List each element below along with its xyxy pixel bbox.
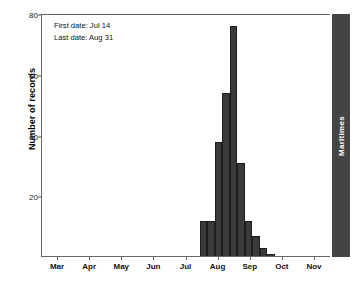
- histogram-bar: [200, 221, 207, 257]
- x-tick-label: Nov: [306, 262, 321, 271]
- x-tick-label: May: [113, 262, 129, 271]
- x-tick-mark: [282, 256, 283, 260]
- x-tick-mark: [89, 256, 90, 260]
- histogram-bar: [222, 93, 229, 257]
- x-tick-mark: [153, 256, 154, 260]
- histogram-bar: [207, 221, 214, 257]
- y-axis-title: Number of records: [27, 29, 37, 189]
- x-tick-mark: [250, 256, 251, 260]
- annotation-block: First date: Jul 14 Last date: Aug 31: [54, 20, 113, 44]
- x-tick-label: Aug: [210, 262, 226, 271]
- annotation-first-date: First date: Jul 14: [54, 20, 113, 32]
- facet-strip-label: Maritimes: [337, 115, 346, 155]
- x-tick-label: Apr: [82, 262, 96, 271]
- y-tick-mark: [38, 197, 42, 198]
- y-tick-label: 60: [29, 71, 38, 80]
- x-tick-mark: [218, 256, 219, 260]
- histogram-bar: [237, 163, 244, 257]
- y-tick-mark: [38, 136, 42, 137]
- x-tick-mark: [121, 256, 122, 260]
- y-tick-label: 40: [29, 132, 38, 141]
- x-tick-mark: [314, 256, 315, 260]
- histogram-bar: [252, 236, 259, 257]
- histogram-bar: [215, 142, 222, 257]
- y-tick-mark: [38, 75, 42, 76]
- x-tick-label: Jul: [180, 262, 192, 271]
- histogram-figure: Number of records First date: Jul 14 Las…: [0, 0, 355, 284]
- histogram-bar: [230, 26, 237, 257]
- x-tick-label: Mar: [50, 262, 64, 271]
- x-tick-label: Oct: [275, 262, 288, 271]
- histogram-bar: [245, 221, 252, 257]
- x-tick-mark: [57, 256, 58, 260]
- y-tick-label: 20: [29, 193, 38, 202]
- plot-panel: First date: Jul 14 Last date: Aug 31 204…: [41, 14, 330, 257]
- y-tick-label: 80: [29, 11, 38, 20]
- x-tick-mark: [186, 256, 187, 260]
- facet-strip-maritimes: Maritimes: [332, 14, 350, 257]
- annotation-last-date: Last date: Aug 31: [54, 32, 113, 44]
- y-tick-mark: [38, 15, 42, 16]
- x-tick-label: Sep: [242, 262, 257, 271]
- x-tick-label: Jun: [146, 262, 160, 271]
